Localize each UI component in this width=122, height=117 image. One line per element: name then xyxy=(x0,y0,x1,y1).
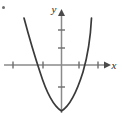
graph-canvas: x y xyxy=(0,0,122,117)
parabola-figure: x y xyxy=(0,0,122,117)
y-axis-label: y xyxy=(51,3,57,15)
x-axis-arrow-icon xyxy=(104,62,111,69)
y-axis-arrow-icon xyxy=(58,9,65,16)
x-axis-label: x xyxy=(111,59,117,71)
